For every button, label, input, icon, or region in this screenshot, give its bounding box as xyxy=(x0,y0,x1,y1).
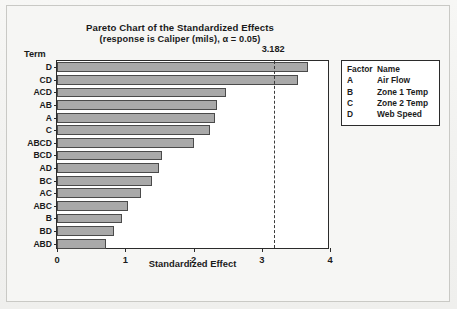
factor-legend: Factor Name AAir FlowBZone 1 TempCZone 2… xyxy=(341,60,440,126)
bar-row: AB xyxy=(57,100,330,110)
title-block: Pareto Chart of the Standardized Effects… xyxy=(20,22,340,45)
y-axis-tick xyxy=(54,67,57,68)
bar-row: ABCD xyxy=(57,138,330,148)
bar-row: B xyxy=(57,214,330,224)
bar-row: CD xyxy=(57,75,330,85)
bar-row: D xyxy=(57,62,330,72)
legend-factor-name: Zone 1 Temp xyxy=(377,87,437,98)
bar-d xyxy=(57,62,308,72)
x-axis-tick xyxy=(57,248,58,252)
y-axis-label-bd: BD xyxy=(40,226,52,236)
legend-row: BZone 1 Temp xyxy=(347,87,437,98)
bar-cd xyxy=(57,75,298,85)
bar-a xyxy=(57,113,215,123)
x-axis-tick xyxy=(330,248,331,252)
y-axis-label-cd: CD xyxy=(40,75,52,85)
y-axis-tick xyxy=(54,80,57,81)
y-axis-tick xyxy=(54,143,57,144)
y-axis-label-ac: AC xyxy=(40,188,52,198)
bar-ac xyxy=(57,188,141,198)
bar-ad xyxy=(57,163,159,173)
bar-row: ACD xyxy=(57,88,330,98)
y-axis-label-ad: AD xyxy=(40,163,52,173)
bar-row: ABC xyxy=(57,201,330,211)
y-axis-label-bc: BC xyxy=(40,176,52,186)
y-axis-label-bcd: BCD xyxy=(33,150,52,160)
y-axis-tick xyxy=(54,181,57,182)
bar-bcd xyxy=(57,151,162,161)
legend-header-name: Name xyxy=(377,64,437,75)
y-axis-tick xyxy=(54,130,57,131)
bar-row: A xyxy=(57,113,330,123)
legend-rows: AAir FlowBZone 1 TempCZone 2 TempDWeb Sp… xyxy=(347,75,437,120)
legend-factor-name: Web Speed xyxy=(377,109,437,120)
y-axis-tick xyxy=(54,155,57,156)
screenshot-root: Pareto Chart of the Standardized Effects… xyxy=(0,0,457,309)
y-axis-label-d: D xyxy=(46,62,52,72)
legend-factor-name: Zone 2 Temp xyxy=(377,98,437,109)
bar-acd xyxy=(57,88,226,98)
bar-abc xyxy=(57,201,128,211)
bar-row: AD xyxy=(57,163,330,173)
bar-row: AC xyxy=(57,188,330,198)
y-axis-label-abc: ABC xyxy=(33,201,52,211)
critical-value-label: 3.182 xyxy=(262,44,285,54)
y-axis-tick xyxy=(54,105,57,106)
bar-abd xyxy=(57,239,106,249)
legend-factor-name: Air Flow xyxy=(377,75,437,86)
y-axis-label-ab: AB xyxy=(40,100,52,110)
y-axis-tick xyxy=(54,218,57,219)
bar-c xyxy=(57,125,210,135)
plot-inner: DCDACDABACABCDBCDADBCACABCBBDABD01234 xyxy=(57,61,328,248)
bar-bd xyxy=(57,226,114,236)
legend-header-row: Factor Name xyxy=(347,64,437,75)
legend-factor-code: A xyxy=(347,75,377,86)
y-axis-tick xyxy=(54,206,57,207)
legend-row: AAir Flow xyxy=(347,75,437,86)
bar-ab xyxy=(57,100,217,110)
y-axis-label-c: C xyxy=(46,125,52,135)
x-axis-tick xyxy=(125,248,126,252)
chart-subtitle: (response is Caliper (mils), α = 0.05) xyxy=(20,34,340,45)
bar-row: BC xyxy=(57,176,330,186)
term-axis-caption: Term xyxy=(24,49,46,59)
x-axis-tick xyxy=(262,248,263,252)
legend-factor-code: B xyxy=(347,87,377,98)
y-axis-tick xyxy=(54,231,57,232)
bar-row: BD xyxy=(57,226,330,236)
y-axis-tick xyxy=(54,92,57,93)
bar-abcd xyxy=(57,138,194,148)
y-axis-label-abcd: ABCD xyxy=(27,138,52,148)
y-axis-tick xyxy=(54,244,57,245)
legend-row: CZone 2 Temp xyxy=(347,98,437,109)
critical-value-line xyxy=(274,61,275,248)
chart-title: Pareto Chart of the Standardized Effects xyxy=(20,22,340,33)
y-axis-label-b: B xyxy=(46,213,52,223)
x-axis-title: Standardized Effect xyxy=(56,258,329,269)
legend-factor-code: C xyxy=(347,98,377,109)
y-axis-label-a: A xyxy=(46,113,52,123)
y-axis-tick xyxy=(54,193,57,194)
legend-factor-code: D xyxy=(347,109,377,120)
bar-row: C xyxy=(57,125,330,135)
bar-b xyxy=(57,214,122,224)
legend-row: DWeb Speed xyxy=(347,109,437,120)
x-axis-tick xyxy=(194,248,195,252)
y-axis-tick xyxy=(54,168,57,169)
y-axis-tick xyxy=(54,118,57,119)
bar-row: BCD xyxy=(57,151,330,161)
y-axis-label-abd: ABD xyxy=(33,239,52,249)
y-axis-label-acd: ACD xyxy=(33,87,52,97)
plot-area: DCDACDABACABCDBCDADBCACABCBBDABD01234 xyxy=(56,60,329,249)
legend-header-factor: Factor xyxy=(347,64,377,75)
bar-bc xyxy=(57,176,152,186)
